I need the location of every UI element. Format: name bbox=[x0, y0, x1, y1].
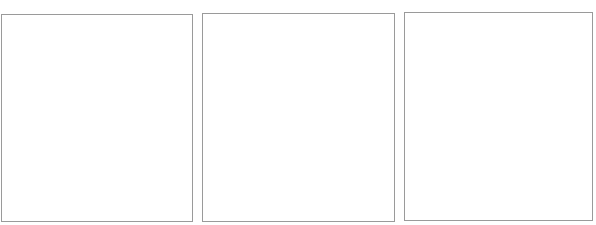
empty-panel-1 bbox=[1, 14, 193, 222]
panel-1-content bbox=[2, 15, 192, 221]
panel-3-content bbox=[405, 13, 592, 220]
empty-panel-2 bbox=[202, 13, 395, 222]
empty-panel-3 bbox=[404, 12, 593, 221]
panel-2-content bbox=[203, 14, 394, 221]
